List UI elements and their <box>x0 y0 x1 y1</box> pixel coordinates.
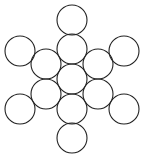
diagram-background <box>0 0 143 159</box>
circle-star-diagram <box>0 0 143 159</box>
